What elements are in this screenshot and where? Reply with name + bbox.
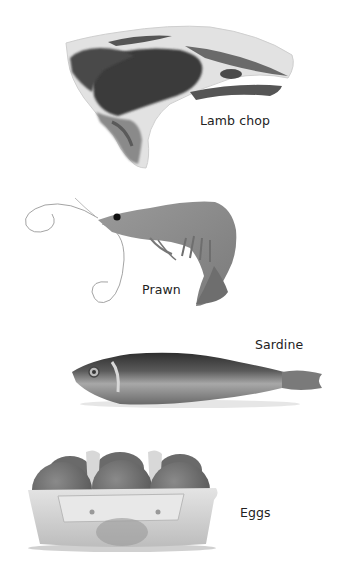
eggs-figure: Eggs <box>0 430 361 567</box>
lamb-chop-label: Lamb chop <box>200 113 270 128</box>
sardine-figure: Sardine <box>0 330 361 430</box>
prawn-label: Prawn <box>142 282 181 297</box>
eggs-label: Eggs <box>240 505 271 520</box>
lamb-chop-figure: Lamb chop <box>0 0 361 180</box>
sardine-image <box>0 330 361 430</box>
prawn-image <box>0 180 361 330</box>
prawn-figure: Prawn <box>0 180 361 330</box>
prawn-eye <box>113 213 120 220</box>
eggs-image <box>0 430 361 567</box>
sardine-label: Sardine <box>255 337 303 352</box>
lamb-chop-image <box>0 0 361 180</box>
